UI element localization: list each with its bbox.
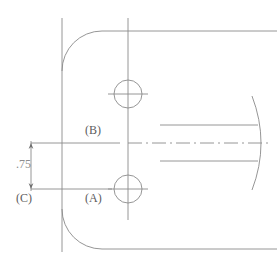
cad-geometry: [0, 0, 277, 269]
plate-bottom-edge: [62, 209, 277, 249]
dimension-value-075: .75: [16, 158, 31, 170]
datum-label-c: (C): [16, 192, 32, 204]
technical-drawing-canvas: (B) (A) (C) .75: [0, 0, 277, 269]
plate-top-edge: [62, 31, 277, 71]
datum-label-b: (B): [85, 124, 101, 136]
datum-label-a: (A): [85, 192, 102, 204]
